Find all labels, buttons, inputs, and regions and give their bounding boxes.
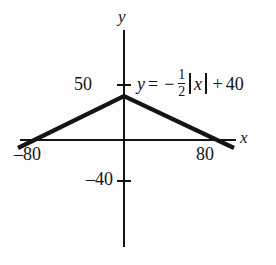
absolute-value-bar-left [189, 73, 191, 94]
equation-lhs: y [137, 75, 145, 93]
y-tick-label-negative-40: –40 [86, 170, 113, 188]
x-axis-label: x [240, 129, 248, 146]
equation-abs-variable: x [194, 75, 202, 93]
equation-constant: 40 [226, 75, 244, 93]
x-tick-label-80: 80 [196, 145, 214, 163]
graph-canvas [0, 0, 276, 265]
y-axis-label: y [118, 8, 126, 25]
equation-minus-sign: − [164, 75, 174, 93]
equation-fraction: 1 2 [178, 68, 185, 100]
absolute-value-bar-right [205, 73, 207, 94]
equation-equals-sign: = [148, 75, 158, 93]
y-tick-label-50: 50 [74, 75, 92, 93]
x-tick-label-negative-80: –80 [14, 145, 41, 163]
equation-plus-sign: + [213, 75, 223, 93]
fraction-denominator: 2 [178, 83, 185, 99]
fraction-numerator: 1 [178, 68, 185, 83]
equation-annotation: y = − 1 2 x + 40 [137, 68, 244, 100]
graph-figure: y x 50 –40 –80 80 y = − 1 2 x + 40 [0, 0, 276, 265]
